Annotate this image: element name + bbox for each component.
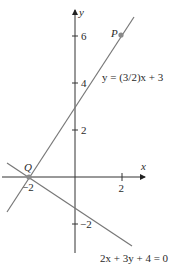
y-axis-label: y	[78, 6, 84, 18]
line-1	[7, 17, 134, 212]
line-2	[7, 163, 132, 246]
x-tick-label-2: 2	[119, 182, 125, 194]
coordinate-plane-figure: x y 2 −2 6 4 2 −2 y = (3/2)x + 3 2x + 3y…	[0, 0, 176, 272]
point-p	[118, 32, 123, 37]
y-tick-label-4: 4	[81, 77, 87, 89]
x-axis-label: x	[140, 160, 146, 172]
y-tick-label-6: 6	[81, 30, 87, 42]
point-q-label: Q	[24, 161, 32, 173]
line-2-equation: 2x + 3y + 4 = 0	[100, 252, 169, 264]
line-1-equation: y = (3/2)x + 3	[102, 71, 164, 84]
y-tick-label-2: 2	[81, 124, 87, 136]
point-p-label: P	[110, 27, 118, 39]
y-tick-label-neg2: −2	[80, 218, 92, 230]
point-q	[26, 174, 31, 179]
